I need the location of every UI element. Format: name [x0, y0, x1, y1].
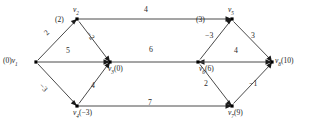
node-dist-v8: (10)	[281, 56, 294, 65]
edge-weight-v3-v6: 6	[149, 46, 153, 54]
node-dist-v5: (3)	[196, 15, 205, 24]
edge-weight-v4-v3: 4	[91, 82, 95, 90]
graph-canvas	[0, 0, 309, 126]
node-label-v6: v6(6)	[199, 65, 214, 75]
edge-weight-v6-v8: 4	[234, 47, 238, 55]
node-dot-v5[interactable]	[230, 17, 233, 20]
node-label-v7: v7(9)	[228, 109, 243, 119]
node-dist-v4: (−3)	[79, 108, 92, 117]
edge-weight-v5-v8: 3	[251, 32, 255, 40]
edge-weight-v4-v7: 7	[148, 99, 152, 107]
node-label-v4: v4(−3)	[73, 109, 92, 119]
edge-weight-v6-v5: −3	[205, 32, 213, 40]
edge-weight-v1-v3: 5	[66, 47, 70, 55]
node-dist-v2: (2)	[55, 15, 64, 24]
node-dist-label-v2: (2)	[55, 16, 64, 24]
node-label-v3: v3(0)	[108, 65, 123, 75]
graph-figure: (0)v1 (2) v2 v3(0) v4(−3) (3) v5 v6(6) v…	[0, 0, 309, 126]
node-dist-v1: (0)	[3, 56, 12, 65]
node-label-v8: v8(10)	[275, 57, 293, 67]
edge-v6-v5[interactable]	[200, 22, 230, 60]
node-dot-v2[interactable]	[75, 17, 78, 20]
edge-v5-v8[interactable]	[234, 22, 271, 60]
node-dist-v3: (0)	[114, 64, 123, 73]
edge-weight-v7-v8: −1	[249, 80, 257, 88]
node-label-v1: (0)v1	[3, 57, 18, 67]
node-dot-v1[interactable]	[34, 60, 37, 63]
node-dist-v7: (9)	[234, 108, 243, 117]
node-sub-v5: 5	[231, 10, 234, 16]
node-sub-v1: 1	[15, 61, 18, 67]
edge-weight-v6-v7: 2	[204, 80, 208, 88]
node-name-label-v5: v5	[228, 6, 234, 16]
edge-weight-v2-v5: 4	[144, 6, 148, 14]
node-sub-v2: 2	[76, 10, 79, 16]
node-dist-v6: (6)	[205, 64, 214, 73]
node-dot-v8[interactable]	[270, 60, 273, 63]
node-dist-label-v5: (3)	[196, 16, 205, 24]
edge-v2-v3[interactable]	[79, 22, 108, 60]
node-name-label-v2: v2	[73, 6, 79, 16]
